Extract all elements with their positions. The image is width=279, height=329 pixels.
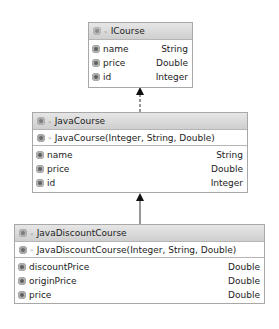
class-box-icourse[interactable]: » ICourse name String price Double id In… bbox=[88, 22, 193, 88]
constructor-row: » JavaDiscountCourse(Integer, String, Do… bbox=[15, 242, 264, 258]
field-type: Integer bbox=[156, 72, 188, 82]
implements-arrowhead bbox=[136, 87, 144, 95]
field-name: name bbox=[103, 44, 129, 54]
field-icon bbox=[92, 73, 100, 81]
method-icon bbox=[19, 246, 27, 254]
constructor-signature: JavaDiscountCourse(Integer, String, Doub… bbox=[37, 245, 237, 255]
field-name: originPrice bbox=[29, 276, 77, 286]
field-row: price Double bbox=[15, 288, 264, 302]
class-name: ICourse bbox=[111, 26, 145, 36]
field-row: id Integer bbox=[33, 176, 247, 190]
class-icon bbox=[37, 117, 45, 125]
field-icon bbox=[18, 277, 26, 285]
field-name: id bbox=[103, 72, 111, 82]
field-name: id bbox=[47, 178, 55, 188]
field-icon bbox=[36, 179, 44, 187]
visibility-icon: » bbox=[48, 134, 52, 141]
field-row: originPrice Double bbox=[15, 274, 264, 288]
field-name: price bbox=[47, 164, 69, 174]
field-type: Double bbox=[156, 58, 188, 68]
field-type: Double bbox=[228, 290, 260, 300]
field-type: Integer bbox=[211, 178, 243, 188]
field-type: Double bbox=[228, 276, 260, 286]
interface-icon bbox=[93, 27, 101, 35]
field-type: String bbox=[216, 150, 243, 160]
visibility-icon: » bbox=[30, 246, 34, 253]
extends-arrowhead bbox=[136, 193, 144, 201]
field-icon bbox=[92, 59, 100, 67]
field-icon bbox=[18, 291, 26, 299]
field-row: id Integer bbox=[89, 70, 192, 84]
class-header: » JavaDiscountCourse bbox=[15, 225, 264, 242]
class-header: » ICourse bbox=[89, 23, 192, 40]
class-box-javacourse[interactable]: » JavaCourse » JavaCourse(Integer, Strin… bbox=[32, 112, 248, 193]
visibility-icon: » bbox=[104, 28, 108, 35]
field-icon bbox=[18, 263, 26, 271]
field-icon bbox=[36, 151, 44, 159]
field-name: price bbox=[29, 290, 51, 300]
field-row: name String bbox=[89, 42, 192, 56]
constructor-signature: JavaCourse(Integer, String, Double) bbox=[55, 133, 215, 143]
field-row: name String bbox=[33, 148, 247, 162]
field-type: Double bbox=[211, 164, 243, 174]
class-box-javadiscountcourse[interactable]: » JavaDiscountCourse » JavaDiscountCours… bbox=[14, 224, 265, 304]
field-icon bbox=[92, 45, 100, 53]
method-icon bbox=[37, 134, 45, 142]
field-name: name bbox=[47, 150, 73, 160]
field-type: String bbox=[161, 44, 188, 54]
class-header: » JavaCourse bbox=[33, 113, 247, 130]
field-row: price Double bbox=[33, 162, 247, 176]
class-icon bbox=[19, 229, 27, 237]
field-icon bbox=[36, 165, 44, 173]
class-name: JavaCourse bbox=[55, 116, 105, 126]
visibility-icon: » bbox=[48, 118, 52, 125]
field-row: discountPrice Double bbox=[15, 260, 264, 274]
class-name: JavaDiscountCourse bbox=[37, 228, 127, 238]
field-row: price Double bbox=[89, 56, 192, 70]
constructor-row: » JavaCourse(Integer, String, Double) bbox=[33, 130, 247, 146]
field-name: discountPrice bbox=[29, 262, 89, 272]
field-name: price bbox=[103, 58, 125, 68]
visibility-icon: » bbox=[30, 230, 34, 237]
field-type: Double bbox=[228, 262, 260, 272]
